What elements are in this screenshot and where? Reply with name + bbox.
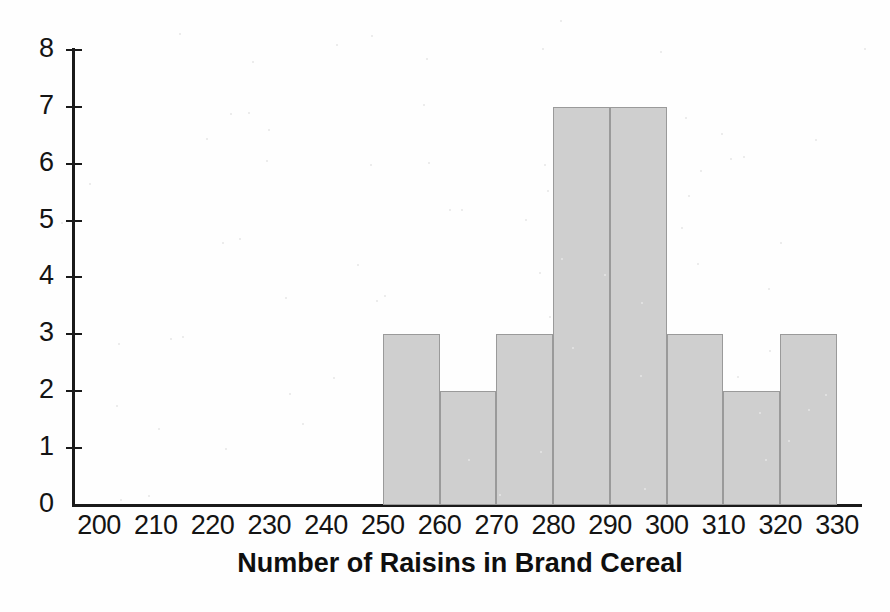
scan-speck (222, 242, 224, 244)
x-tick-label: 330 (802, 512, 872, 539)
scan-speck (302, 423, 304, 425)
scan-speck (182, 336, 184, 338)
scan-speck (768, 288, 770, 290)
scan-speck (336, 44, 338, 46)
scan-speck (376, 300, 378, 302)
scan-speck (544, 164, 546, 166)
scan-speck (158, 428, 160, 430)
y-tick-mark (66, 276, 82, 278)
scan-speck (700, 170, 702, 172)
scan-speck (116, 405, 118, 407)
scan-speck (206, 138, 208, 140)
y-tick-mark (66, 220, 82, 222)
scan-speck (769, 350, 771, 352)
scan-speck (357, 264, 359, 266)
scan-speck (780, 242, 782, 244)
scan-speck (384, 295, 386, 297)
histogram-bar (553, 107, 610, 505)
y-tick-label: 1 (14, 433, 54, 460)
scan-speck (230, 113, 232, 115)
scan-speck (239, 238, 241, 240)
scan-speck (370, 164, 372, 166)
scan-speck (371, 35, 373, 37)
scan-speck (118, 343, 120, 345)
scan-speck (449, 209, 451, 211)
scan-speck (525, 219, 527, 221)
scan-speck (89, 183, 91, 185)
scan-speck (685, 117, 687, 119)
scan-speck (252, 61, 254, 63)
histogram-bar (723, 391, 780, 505)
y-tick-mark (66, 49, 82, 51)
y-tick-label: 0 (14, 490, 54, 517)
scan-speck (730, 158, 732, 160)
plot-area: 012345678 200210220230240250260270280290… (0, 0, 890, 612)
histogram-figure: 012345678 200210220230240250260270280290… (0, 0, 890, 612)
y-tick-label: 6 (14, 149, 54, 176)
y-tick-label: 3 (14, 319, 54, 346)
scan-speck (737, 376, 739, 378)
y-tick-mark (66, 447, 82, 449)
scan-speck (561, 258, 563, 260)
scan-speck (461, 209, 463, 211)
scan-speck (333, 377, 335, 379)
scan-speck (148, 495, 150, 497)
scan-speck (697, 263, 699, 265)
y-tick-label: 4 (14, 262, 54, 289)
y-tick-mark (66, 163, 82, 165)
histogram-bar (780, 334, 837, 505)
scan-speck (120, 499, 122, 501)
histogram-bar (496, 334, 553, 505)
scan-speck (681, 227, 683, 229)
scan-speck (572, 347, 574, 349)
scan-speck (179, 33, 181, 35)
scan-speck (549, 316, 551, 318)
scan-speck (289, 393, 291, 395)
scan-speck (660, 51, 662, 53)
y-tick-mark (66, 333, 82, 335)
scan-speck (721, 133, 723, 135)
scan-speck (248, 112, 250, 114)
scan-speck (688, 195, 690, 197)
scan-speck (61, 222, 63, 224)
y-tick-label: 5 (14, 206, 54, 233)
scan-speck (426, 58, 428, 60)
scan-speck (170, 338, 172, 340)
histogram-bar (667, 334, 724, 505)
histogram-bar (610, 107, 667, 505)
y-tick-mark (66, 390, 82, 392)
scan-speck (285, 297, 287, 299)
y-tick-label: 7 (14, 92, 54, 119)
scan-speck (423, 104, 425, 106)
scan-speck (539, 272, 541, 274)
scan-speck (641, 302, 643, 304)
y-tick-mark (66, 106, 82, 108)
histogram-bar (383, 334, 440, 505)
scan-speck (644, 488, 646, 490)
scan-speck (266, 160, 268, 162)
scan-speck (743, 156, 745, 158)
scan-speck (547, 190, 549, 192)
x-axis-title: Number of Raisins in Brand Cereal (0, 548, 890, 579)
scan-speck (268, 129, 270, 131)
histogram-bar (440, 391, 497, 505)
scan-speck (788, 440, 790, 442)
y-tick-label: 8 (14, 35, 54, 62)
scan-speck (825, 394, 827, 396)
y-tick-label: 2 (14, 376, 54, 403)
scan-speck (864, 48, 866, 50)
scan-speck (542, 48, 544, 50)
scan-speck (225, 448, 227, 450)
scan-speck (815, 139, 817, 141)
scan-speck (560, 20, 562, 22)
scan-speck (428, 162, 430, 164)
